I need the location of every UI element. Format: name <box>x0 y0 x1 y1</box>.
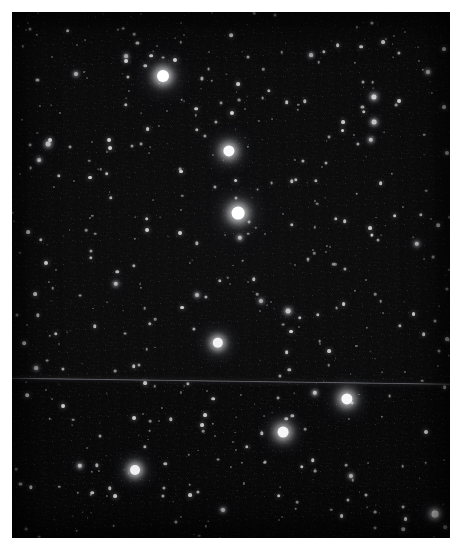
faint-star <box>412 312 416 316</box>
faint-star <box>37 444 38 445</box>
faint-star <box>428 92 429 93</box>
faint-star <box>359 464 360 465</box>
faint-star <box>329 527 330 528</box>
faint-star <box>175 493 176 494</box>
faint-star <box>432 256 435 259</box>
medium-star <box>78 464 82 468</box>
faint-star <box>48 138 52 142</box>
faint-star <box>317 105 318 106</box>
faint-star <box>306 182 308 184</box>
faint-star <box>302 425 303 426</box>
faint-star <box>132 416 136 420</box>
faint-star <box>396 369 397 370</box>
faint-star <box>180 22 182 24</box>
faint-star <box>243 425 244 426</box>
faint-star <box>284 75 285 76</box>
faint-star <box>19 173 21 175</box>
faint-star <box>445 337 449 341</box>
faint-star <box>209 332 210 333</box>
faint-star <box>241 462 243 464</box>
faint-star <box>438 349 441 352</box>
faint-star <box>57 174 60 177</box>
faint-star <box>95 461 96 462</box>
faint-star <box>404 301 405 302</box>
faint-star <box>177 220 178 221</box>
faint-star <box>234 196 237 199</box>
faint-star <box>29 166 32 169</box>
medium-star <box>74 72 78 76</box>
faint-star <box>138 435 139 436</box>
faint-star <box>42 301 43 302</box>
faint-star <box>440 36 442 38</box>
faint-star <box>401 506 404 509</box>
faint-star <box>53 172 54 173</box>
faint-star <box>360 469 361 470</box>
faint-star <box>235 416 237 418</box>
faint-star <box>327 349 331 353</box>
faint-star <box>55 269 57 271</box>
faint-star <box>364 39 366 41</box>
faint-star <box>135 395 136 396</box>
faint-star <box>219 537 221 539</box>
faint-star <box>280 392 281 393</box>
faint-star <box>332 263 335 266</box>
faint-star <box>356 143 359 146</box>
faint-star <box>424 430 428 434</box>
faint-star <box>53 519 55 521</box>
faint-star <box>413 236 415 238</box>
faint-star <box>34 14 35 15</box>
faint-star <box>303 100 306 103</box>
faint-star <box>247 281 249 283</box>
faint-star <box>91 470 93 472</box>
faint-star <box>326 140 328 142</box>
faint-star <box>26 230 30 234</box>
faint-star <box>437 365 439 367</box>
faint-star <box>19 514 20 515</box>
faint-star <box>445 274 447 276</box>
faint-star <box>67 314 68 315</box>
faint-star <box>51 300 53 302</box>
faint-star <box>294 17 295 18</box>
faint-star <box>417 46 419 48</box>
faint-star <box>264 233 266 235</box>
faint-star <box>288 368 291 371</box>
faint-star <box>374 527 377 530</box>
faint-star <box>256 293 259 296</box>
faint-star <box>54 59 55 60</box>
faint-star <box>244 137 246 139</box>
faint-star <box>398 324 401 327</box>
faint-star <box>289 330 293 334</box>
faint-star <box>99 423 100 424</box>
faint-star <box>404 517 408 521</box>
faint-star <box>247 221 250 224</box>
faint-star <box>270 58 271 59</box>
faint-star <box>136 460 137 461</box>
faint-star <box>47 244 49 246</box>
faint-star <box>416 55 417 56</box>
faint-star <box>107 292 109 294</box>
faint-star <box>215 521 216 522</box>
faint-star <box>109 212 111 214</box>
faint-star <box>146 179 147 180</box>
faint-star <box>197 491 200 494</box>
faint-star <box>330 151 331 152</box>
medium-star <box>286 309 291 314</box>
faint-star <box>50 100 51 101</box>
faint-star <box>373 88 375 90</box>
faint-star <box>281 516 283 518</box>
faint-star <box>346 498 349 501</box>
faint-star <box>178 231 182 235</box>
faint-star <box>172 498 173 499</box>
faint-star <box>325 251 327 253</box>
faint-star <box>145 348 148 351</box>
bright-star <box>278 427 289 438</box>
faint-star <box>260 432 263 435</box>
faint-star <box>13 221 15 223</box>
sky-plate-frame <box>12 12 450 538</box>
faint-star <box>134 459 135 460</box>
faint-star <box>352 134 354 136</box>
faint-star <box>234 179 238 183</box>
faint-star <box>448 45 449 46</box>
faint-star <box>208 51 210 53</box>
faint-star <box>323 234 324 235</box>
